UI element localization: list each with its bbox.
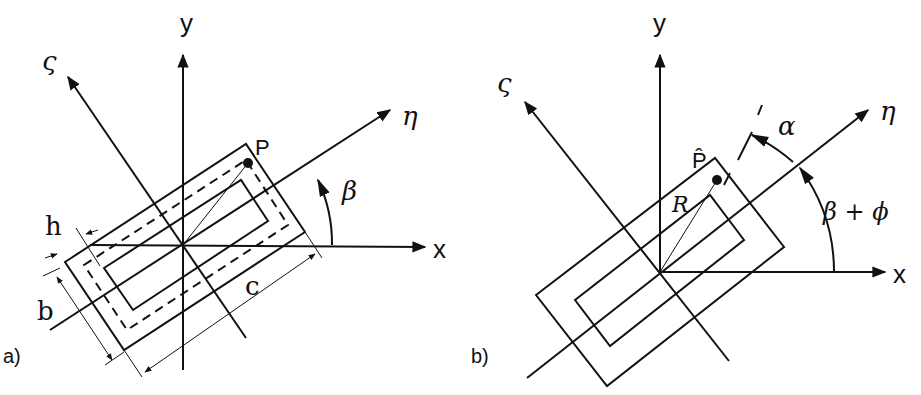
panel-label-a: a) — [3, 345, 21, 367]
eta-axis — [50, 110, 390, 330]
panel-b: y x η ς P̂ R α β + ϕ b) — [471, 8, 906, 386]
beta-arc — [318, 180, 332, 245]
dim-h-ext2 — [43, 268, 60, 276]
label-p: P — [255, 135, 270, 160]
label-b: b — [37, 296, 54, 326]
zeta-axis-b — [525, 102, 729, 361]
panel-label-b: b) — [471, 345, 489, 367]
dim-h-arrow2 — [45, 254, 57, 258]
dim-c-ext2 — [124, 350, 142, 377]
panel-a: y x η ς P β h b c a) — [3, 8, 446, 377]
point-p-hat — [712, 175, 722, 185]
label-y-b: y — [653, 8, 666, 38]
label-alpha: α — [778, 111, 796, 141]
label-zeta-b: ς — [497, 68, 512, 98]
label-eta: η — [402, 101, 418, 131]
dim-h-arrow1 — [86, 230, 98, 234]
label-r: R — [671, 192, 689, 217]
dim-c-line — [145, 254, 315, 372]
label-p-hat: P̂ — [692, 148, 707, 173]
radius-line-p — [183, 163, 248, 245]
label-h: h — [45, 211, 62, 241]
alpha-reference-line-2 — [738, 132, 752, 160]
label-y: y — [180, 8, 193, 38]
label-beta-phi: β + ϕ — [822, 198, 889, 226]
zeta-axis — [68, 77, 246, 338]
label-c: c — [245, 271, 260, 301]
label-x-b: x — [893, 259, 906, 289]
label-beta: β — [341, 176, 357, 206]
point-p — [243, 158, 253, 168]
label-zeta: ς — [42, 46, 57, 76]
label-x: x — [433, 234, 446, 264]
label-eta-b: η — [880, 96, 896, 126]
dim-c-ext1 — [305, 232, 322, 258]
alpha-reference-line-3 — [758, 105, 762, 115]
